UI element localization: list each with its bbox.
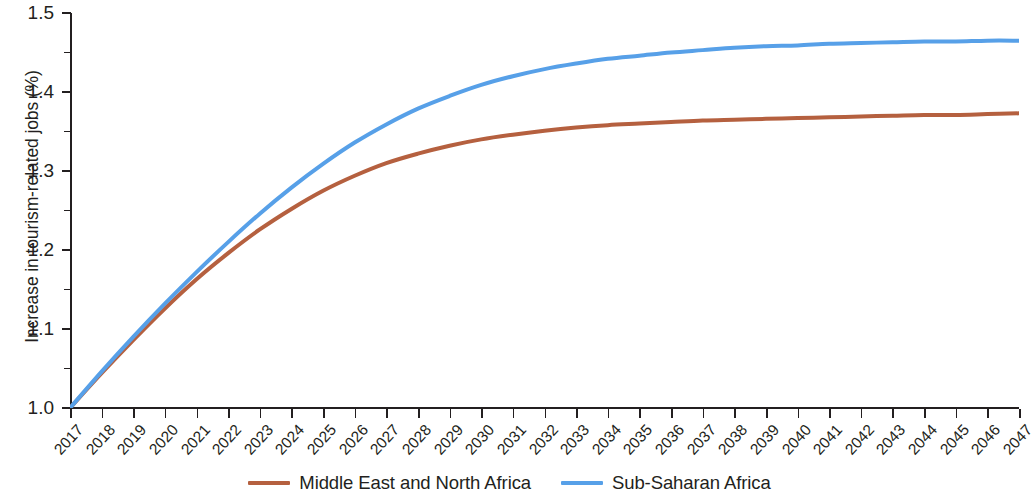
- y-tick-label: 1.3: [8, 161, 54, 180]
- legend-entry[interactable]: Sub-Saharan Africa: [561, 472, 771, 494]
- x-tick: [102, 409, 104, 418]
- x-tick: [481, 409, 483, 418]
- x-tick: [323, 409, 325, 418]
- legend-color-swatch: [561, 481, 603, 486]
- y-tick-label: 1.1: [8, 319, 54, 338]
- x-tick: [197, 409, 199, 418]
- x-tick: [608, 409, 610, 418]
- series-line: [70, 41, 1019, 408]
- chart-legend: Middle East and North AfricaSub-Saharan …: [0, 472, 1019, 494]
- x-tick: [798, 409, 800, 418]
- x-tick: [956, 409, 958, 418]
- legend-color-swatch: [248, 481, 290, 486]
- x-tick: [987, 409, 989, 418]
- x-tick: [576, 409, 578, 418]
- x-tick: [861, 409, 863, 418]
- x-tick: [924, 409, 926, 418]
- x-tick: [165, 409, 167, 418]
- y-tick-label: 1.5: [8, 3, 54, 22]
- x-tick: [1019, 409, 1021, 418]
- x-tick: [450, 409, 452, 418]
- x-tick: [355, 409, 357, 418]
- plot-area: [70, 13, 1019, 408]
- x-tick: [639, 409, 641, 418]
- y-tick-label: 1.2: [8, 240, 54, 259]
- x-tick: [734, 409, 736, 418]
- series-line: [70, 113, 1019, 408]
- x-tick: [70, 409, 72, 418]
- x-tick: [133, 409, 135, 418]
- x-tick: [418, 409, 420, 418]
- x-tick: [829, 409, 831, 418]
- legend-label: Middle East and North Africa: [299, 472, 531, 494]
- y-tick-label: 1.0: [8, 398, 54, 417]
- x-tick: [766, 409, 768, 418]
- x-tick: [291, 409, 293, 418]
- x-tick: [513, 409, 515, 418]
- y-tick-label: 1.4: [8, 82, 54, 101]
- legend-entry[interactable]: Middle East and North Africa: [248, 472, 531, 494]
- series-lines: [70, 13, 1019, 408]
- x-tick: [671, 409, 673, 418]
- x-tick: [260, 409, 262, 418]
- x-tick: [703, 409, 705, 418]
- x-tick: [545, 409, 547, 418]
- x-tick: [892, 409, 894, 418]
- x-tick: [228, 409, 230, 418]
- x-tick: [386, 409, 388, 418]
- legend-label: Sub-Saharan Africa: [612, 472, 771, 494]
